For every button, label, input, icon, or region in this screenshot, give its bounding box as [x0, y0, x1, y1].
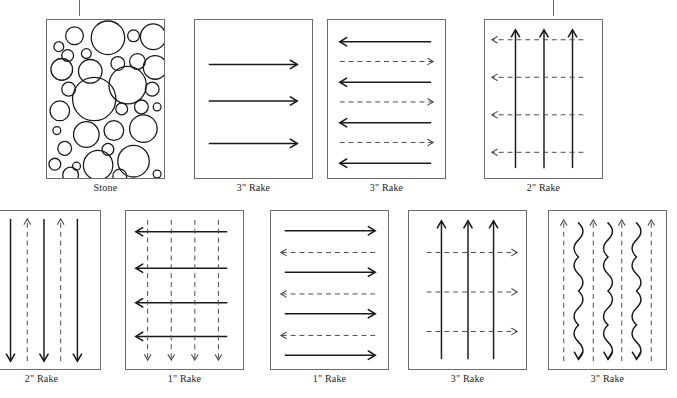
- panel-rake-3-up-right: [408, 210, 527, 370]
- panel-rake-3-wavy: [548, 210, 667, 370]
- panel-caption: 2" Rake: [484, 182, 603, 194]
- panel-rake-2-vertical: [0, 210, 101, 370]
- panel-rake-1-grid: [125, 210, 244, 370]
- panel-caption: 2" Rake: [0, 373, 101, 385]
- panel-rake-3-right: [194, 19, 313, 179]
- tick-left: [79, 0, 80, 16]
- panel-caption: Stone: [46, 182, 165, 194]
- panel-stone: [46, 19, 165, 179]
- panel-rake-1-alternating: [270, 210, 389, 370]
- panel-caption: 3" Rake: [327, 182, 446, 194]
- panel-caption: 3" Rake: [408, 373, 527, 385]
- panel-caption: 1" Rake: [270, 373, 389, 385]
- panel-caption: 1" Rake: [125, 373, 244, 385]
- panel-caption: 3" Rake: [194, 182, 313, 194]
- figure-sheet: Stone3" Rake3" Rake2" Rake2" Rake1" Rake…: [0, 0, 677, 398]
- panel-rake-2-up-left: [484, 19, 603, 179]
- panel-rake-3-alternating: [327, 19, 446, 179]
- panel-caption: 3" Rake: [548, 373, 667, 385]
- tick-right: [553, 0, 554, 16]
